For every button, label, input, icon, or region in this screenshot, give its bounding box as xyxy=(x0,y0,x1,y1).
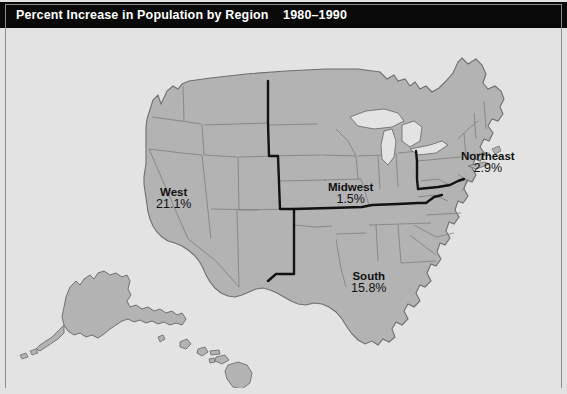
alaska-aleutian-tail xyxy=(36,325,64,351)
alaska-island-a xyxy=(30,349,38,355)
hawaii-maui xyxy=(215,355,229,364)
hawaii-niihau xyxy=(158,335,165,342)
hawaii-lanai xyxy=(209,358,215,363)
region-border-midwest-northeast xyxy=(416,151,418,189)
hawaii-molokai xyxy=(210,350,220,355)
contiguous-us-landmass xyxy=(144,58,504,345)
us-region-map-svg xyxy=(6,29,561,388)
map-canvas: West 21.1% Midwest 1.5% Northeast 2.9% S… xyxy=(6,29,561,388)
alaska-landmass xyxy=(62,271,186,338)
map-land-layer xyxy=(144,58,504,345)
figure-title-bar: Percent Increase in Population by Region… xyxy=(0,2,567,28)
hawaii-inset xyxy=(158,335,252,388)
alaska-island-b xyxy=(20,353,28,359)
hawaii-bigisland xyxy=(225,362,252,388)
hawaii-kauai xyxy=(180,339,191,349)
population-increase-map-figure: Percent Increase in Population by Region… xyxy=(0,0,567,394)
hawaii-oahu xyxy=(197,347,208,356)
alaska-inset xyxy=(20,271,186,359)
figure-title: Percent Increase in Population by Region… xyxy=(16,8,347,22)
cape-cod xyxy=(492,146,501,154)
